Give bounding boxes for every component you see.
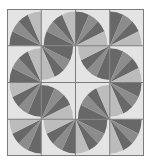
quilt-grid: [7, 9, 144, 156]
quilt-pattern: [7, 9, 144, 156]
